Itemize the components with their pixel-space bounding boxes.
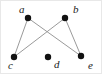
graph-vertex-a — [25, 15, 31, 21]
vertex-label-c: c — [8, 60, 13, 71]
graph-vertex-d — [45, 54, 51, 60]
graph-canvas — [1, 1, 102, 74]
vertex-label-d: d — [54, 59, 60, 70]
graph-vertex-b — [62, 15, 68, 21]
vertex-label-a: a — [19, 4, 25, 15]
vertex-label-b: b — [73, 4, 79, 15]
graph-edge-b-c — [14, 18, 65, 57]
edge-layer — [14, 18, 81, 57]
graph-figure: abcde — [0, 0, 102, 74]
vertex-label-e: e — [88, 60, 93, 71]
graph-vertex-e — [78, 53, 84, 59]
